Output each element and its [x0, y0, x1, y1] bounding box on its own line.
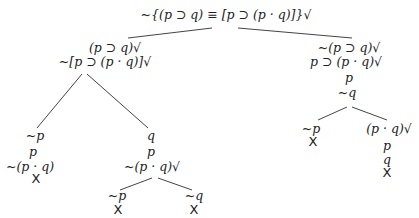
closed-mark: X [190, 203, 199, 217]
lrr-line-1: ~q [185, 189, 203, 203]
lr-line-3: ~(p · q)√ [124, 160, 180, 174]
lr-line-2: p [147, 145, 155, 159]
branch-root-left [128, 28, 212, 38]
closed-mark: X [383, 166, 392, 180]
rr-line-2: p [383, 139, 391, 153]
tree-branches [0, 0, 419, 218]
rr-line-1: (p · q)√ [366, 122, 412, 136]
left-line-2: ~[p ⊃ (p · q)]√ [59, 55, 151, 69]
ll-line-3: ~(p · q) [6, 160, 54, 174]
ll-line-1: ~p [26, 129, 44, 143]
branch-r-right [352, 107, 387, 120]
closed-mark: X [32, 172, 41, 186]
ll-line-2: p [29, 145, 37, 159]
right-line-4: ~q [338, 86, 356, 100]
branch-l-right [87, 74, 148, 128]
left-line-1: (p ⊃ q)√ [89, 41, 141, 55]
closed-mark: X [114, 203, 123, 217]
lrl-line-1: ~p [108, 189, 126, 203]
right-line-3: p [345, 71, 353, 85]
closed-mark: X [309, 135, 318, 149]
right-line-1: ~(p ⊃ q)√ [318, 41, 381, 55]
branch-r-left [318, 107, 347, 120]
branch-root-right [238, 28, 352, 38]
lr-line-1: q [147, 129, 155, 143]
root-formula: ~{(p ⊃ q) ≡ [p ⊃ (p · q)]}√ [141, 8, 312, 22]
right-line-2: p ⊃ (p · q)√ [310, 55, 382, 69]
branch-l-left [37, 74, 82, 128]
